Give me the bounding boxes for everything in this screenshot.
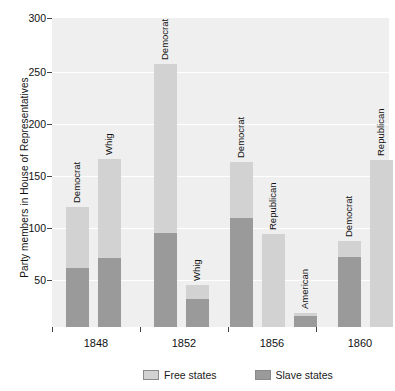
y-tick-label-150: 150 [6, 171, 46, 182]
bar-1856-american[interactable]: American [294, 313, 317, 327]
legend-item-free-states[interactable]: Free states [143, 369, 217, 381]
bar-segment-free-states [186, 285, 209, 299]
bar-segment-free-states [98, 159, 121, 258]
x-tick-label-1852: 1852 [154, 337, 214, 349]
gridline-200 [52, 124, 389, 125]
x-tick-label-1860: 1860 [330, 337, 390, 349]
bar-segment-free-states [230, 162, 253, 218]
bar-label: Democrat [235, 117, 246, 158]
y-tick-label-300: 300 [6, 13, 46, 24]
y-tick-mark-50 [47, 280, 52, 281]
bar-label: Republican [267, 182, 278, 230]
stacked-bar-chart: Party members in House of Representative… [0, 0, 395, 391]
bar-1852-whig[interactable]: Whig [186, 285, 209, 327]
x-tick-mark-1848 [52, 327, 53, 332]
legend-item-slave-states[interactable]: Slave states [255, 369, 333, 381]
bar-segment-slave-states [66, 268, 89, 327]
x-tick-mark-1860 [316, 327, 317, 332]
bar-label: Democrat [71, 162, 82, 203]
bar-segment-free-states [154, 64, 177, 233]
bar-segment-slave-states [230, 218, 253, 327]
legend-swatch-free-states [143, 370, 159, 380]
bar-segment-free-states [66, 207, 89, 268]
bar-1856-republican[interactable]: Republican [262, 234, 285, 327]
bar-1852-democrat[interactable]: Democrat [154, 64, 177, 327]
x-tick-label-1848: 1848 [66, 337, 126, 349]
bar-segment-slave-states [154, 233, 177, 327]
x-tick-mark-1852 [140, 327, 141, 332]
y-tick-mark-150 [47, 176, 52, 177]
y-tick-label-100: 100 [6, 223, 46, 234]
x-tick-mark-1856 [228, 327, 229, 332]
bar-1848-whig[interactable]: Whig [98, 159, 121, 327]
bar-segment-free-states [338, 241, 361, 257]
plot-area: Democrat Whig Democrat Whig Democrat Rep… [52, 18, 389, 327]
x-tick-label-1856: 1856 [242, 337, 302, 349]
y-tick-mark-300 [47, 18, 52, 19]
bar-label: Democrat [343, 196, 354, 237]
bar-segment-slave-states [98, 258, 121, 327]
bar-segment-slave-states [294, 316, 317, 327]
legend-swatch-slave-states [255, 370, 271, 380]
y-tick-mark-250 [47, 72, 52, 73]
bar-segment-slave-states [338, 257, 361, 327]
bar-segment-slave-states [186, 299, 209, 327]
bar-segment-free-states [262, 234, 285, 327]
bar-label: American [299, 269, 310, 309]
bar-label: Whig [103, 133, 114, 155]
bar-label: Republican [375, 108, 386, 156]
bar-1860-democrat[interactable]: Democrat [338, 241, 361, 327]
gridline-250 [52, 72, 389, 73]
bar-1860-republican[interactable]: Republican [370, 160, 393, 327]
bar-1856-democrat[interactable]: Democrat [230, 162, 253, 327]
y-tick-label-200: 200 [6, 119, 46, 130]
y-tick-label-250: 250 [6, 67, 46, 78]
y-tick-mark-100 [47, 228, 52, 229]
y-tick-mark-200 [47, 124, 52, 125]
legend-label-slave-states: Slave states [276, 369, 333, 381]
legend-label-free-states: Free states [164, 369, 217, 381]
bar-segment-free-states [370, 160, 393, 327]
chart-legend: Free states Slave states [143, 369, 333, 381]
bar-label: Democrat [159, 19, 170, 60]
y-tick-label-50: 50 [6, 275, 46, 286]
bar-label: Whig [191, 259, 202, 281]
bar-1848-democrat[interactable]: Democrat [66, 207, 89, 327]
